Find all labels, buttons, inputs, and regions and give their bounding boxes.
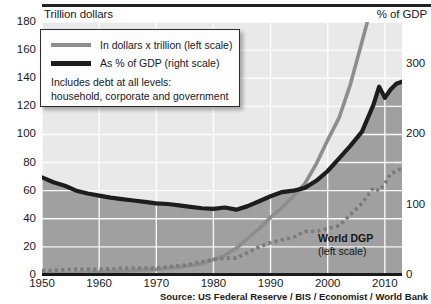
y-axis-left-tick-140: 140 — [0, 71, 36, 83]
y-axis-right-tick-300: 300 — [406, 57, 431, 69]
world-gdp-annotation: World DGP (left scale) — [318, 232, 373, 258]
right-axis-title: % of GDP — [377, 8, 427, 20]
y-axis-left-tick-100: 100 — [0, 127, 36, 139]
legend: In dollars x trillion (left scale) As % … — [40, 29, 240, 107]
x-axis-tick-1980: 1980 — [191, 277, 235, 289]
y-axis-left-tick-60: 60 — [0, 184, 36, 196]
left-axis-title: Trillion dollars — [44, 8, 113, 20]
legend-swatch-dollars-icon — [51, 43, 91, 47]
top-divider-rule — [42, 4, 431, 7]
y-axis-right-tick-100: 100 — [406, 198, 431, 210]
y-axis-left-tick-20: 20 — [0, 240, 36, 252]
y-axis-left-tick-180: 180 — [0, 15, 36, 27]
legend-label-gdp: As % of GDP (right scale) — [100, 57, 219, 69]
x-axis-tick-1970: 1970 — [134, 277, 178, 289]
legend-note-line1: Includes debt at all levels: — [51, 75, 228, 89]
legend-note: Includes debt at all levels: household, … — [51, 75, 228, 103]
y-axis-left-tick-40: 40 — [0, 212, 36, 224]
legend-item-gdp: As % of GDP (right scale) — [51, 56, 219, 70]
y-axis-right-tick-200: 200 — [406, 127, 431, 139]
y-axis-right-tick-0: 0 — [406, 268, 431, 280]
legend-swatch-gdp-icon — [51, 61, 91, 66]
y-axis-left-tick-120: 120 — [0, 99, 36, 111]
source-note: Source: US Federal Reserve / BIS / Econo… — [160, 291, 428, 302]
x-axis-tick-1960: 1960 — [77, 277, 121, 289]
world-gdp-annotation-subtitle: (left scale) — [318, 245, 373, 258]
x-axis-tick-1990: 1990 — [249, 277, 293, 289]
y-axis-left-tick-160: 160 — [0, 43, 36, 55]
world-gdp-annotation-title: World DGP — [318, 232, 373, 245]
x-axis-tick-1950: 1950 — [20, 277, 64, 289]
x-axis-line — [42, 273, 402, 276]
chart-container: Trillion dollars % of GDP 02040608010012… — [0, 0, 431, 304]
legend-note-line2: household, corporate and government — [51, 89, 228, 103]
x-axis-tick-2000: 2000 — [306, 277, 350, 289]
y-axis-left-tick-80: 80 — [0, 156, 36, 168]
x-axis-tick-2010: 2010 — [363, 277, 407, 289]
legend-label-dollars: In dollars x trillion (left scale) — [100, 39, 232, 51]
legend-item-dollars: In dollars x trillion (left scale) — [51, 38, 232, 52]
